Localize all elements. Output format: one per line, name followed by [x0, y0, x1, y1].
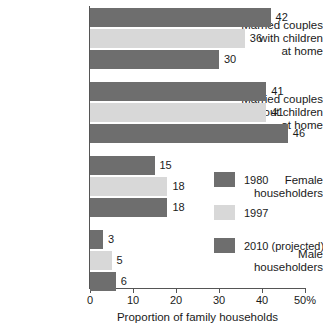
x-tick-label: 30	[213, 294, 225, 306]
bar	[90, 177, 167, 196]
bar	[90, 50, 219, 69]
legend-label: 1997	[244, 207, 268, 219]
category-label-line: householders	[237, 187, 323, 200]
bar-value-label: 6	[121, 275, 127, 287]
bar-value-label: 15	[160, 159, 172, 171]
bar	[90, 8, 271, 27]
x-tick-label: 20	[170, 294, 182, 306]
bar	[90, 272, 116, 291]
bar	[90, 251, 112, 270]
legend-swatch	[214, 172, 235, 187]
bar-value-label: 30	[224, 53, 236, 65]
legend-item[interactable]: 1997	[214, 205, 268, 220]
x-axis-title: Proportion of family households	[90, 311, 305, 323]
bar-value-label: 18	[172, 201, 184, 213]
x-tick	[219, 288, 220, 293]
x-tick	[133, 288, 134, 293]
bar	[90, 29, 245, 48]
bar	[90, 82, 266, 101]
legend-item[interactable]: 2010 (projected)	[214, 238, 323, 253]
bar-value-label: 46	[293, 127, 305, 139]
x-tick	[305, 288, 306, 293]
bar	[90, 103, 266, 122]
bar	[90, 198, 167, 217]
x-tick	[176, 288, 177, 293]
bar-value-label: 18	[172, 180, 184, 192]
x-axis-line	[89, 288, 306, 289]
legend-label: 1980	[244, 174, 268, 186]
category-label-line: at home	[237, 45, 323, 58]
bar-value-label: 3	[108, 233, 114, 245]
bar-value-label: 41	[271, 85, 283, 97]
legend-swatch	[214, 205, 235, 220]
x-tick	[262, 288, 263, 293]
bar	[90, 124, 288, 143]
legend-swatch	[214, 238, 235, 253]
bar	[90, 156, 155, 175]
bar-value-label: 41	[271, 106, 283, 118]
legend-item[interactable]: 1980	[214, 172, 268, 187]
bar-value-label: 36	[250, 32, 262, 44]
category-label-line: householders	[237, 261, 323, 274]
x-tick-label: 10	[127, 294, 139, 306]
x-tick-label: 0	[87, 294, 93, 306]
x-tick-label: 40	[256, 294, 268, 306]
legend-label: 2010 (projected)	[244, 240, 323, 252]
bar-value-label: 5	[117, 254, 123, 266]
bar-chart: 01020304050% Proportion of family househ…	[0, 0, 323, 331]
bar	[90, 230, 103, 249]
bar-value-label: 42	[276, 11, 288, 23]
x-tick-label: 50%	[294, 294, 316, 306]
